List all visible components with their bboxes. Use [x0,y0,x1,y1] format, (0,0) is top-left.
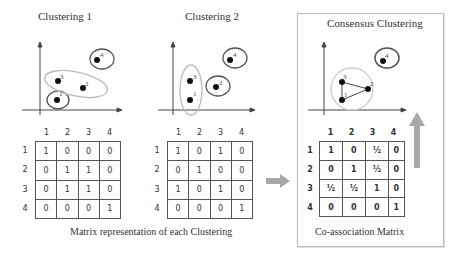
matrix-cell: ½ [365,142,388,161]
axes [308,42,406,115]
matrix-cell: ½ [342,179,365,198]
svg-text:2: 2 [370,80,374,88]
matrix-row: 0001 [320,198,405,217]
matrix-cell: 0 [388,142,404,161]
matrix-cell: 1 [342,160,365,179]
row-header: 1 [305,146,315,155]
matrix-cell: ½ [320,179,343,198]
matrix-cell: 0 [388,179,404,198]
matrix-cell: 1 [365,179,388,198]
matrix-cell: 0 [342,198,365,217]
col-header: 4 [383,128,404,137]
matrix-row: ½½10 [320,179,405,198]
col-header: 2 [341,128,362,137]
matrix-cell: 1 [388,198,404,217]
col-header: 1 [320,128,341,137]
row-header: 3 [305,184,315,193]
matrix-cell: 0 [320,198,343,217]
matrix-cell: 1 [320,142,343,161]
up-arrow-icon [409,112,425,168]
matrix-row: 01½0 [320,160,405,179]
matrix-cell: 0 [388,160,404,179]
matrix-cell: ½ [365,160,388,179]
matrix-cell: 0 [320,160,343,179]
col-header: 3 [362,128,383,137]
co-association-caption: Co-association Matrix [315,226,404,237]
svg-text:4: 4 [385,52,389,60]
row-header: 2 [305,165,315,174]
row-header: 4 [305,203,315,212]
svg-text:1: 1 [344,91,348,99]
matrix-row: 10½0 [320,142,405,161]
svg-text:3: 3 [343,73,347,81]
matrix-cell: 0 [365,198,388,217]
matrix-grid: 10½0 01½0 ½½10 0001 [319,141,405,217]
matrix-cell: 0 [342,142,365,161]
